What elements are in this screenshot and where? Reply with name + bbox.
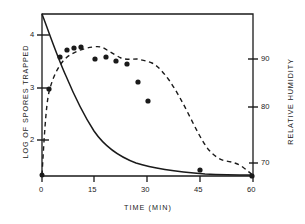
y-left-tick-label-2: 2 <box>30 135 34 144</box>
y-left-tick-label-4: 4 <box>30 30 34 39</box>
chart-canvas <box>0 0 305 224</box>
x-tick-label-45: 45 <box>194 185 202 194</box>
data-point <box>113 58 118 63</box>
x-tick-marks <box>42 176 253 182</box>
series-relative-humidity-line <box>42 47 253 175</box>
series-log-spores-trapped <box>42 14 253 175</box>
data-point <box>249 173 254 178</box>
data-point <box>103 54 108 59</box>
y-right-tick-label-80: 80 <box>261 102 269 111</box>
y-axis-left-title: LOG OF SPORES TRAPPED <box>21 26 30 178</box>
x-tick-label-60: 60 <box>247 185 255 194</box>
data-point <box>135 79 140 84</box>
y-right-tick-label-90: 90 <box>261 54 269 63</box>
data-point <box>64 47 69 52</box>
y-axis-right-title: RELATIVE HUMIDITY <box>286 26 295 178</box>
data-point <box>78 44 83 49</box>
y-left-tick-label-3: 3 <box>30 83 34 92</box>
x-tick-label-15: 15 <box>88 185 96 194</box>
chart-figure: 0 15 30 45 60 4 3 2 90 80 70 LOG OF SPOR… <box>0 0 305 224</box>
x-axis-title: TIME (MIN) <box>42 203 254 212</box>
data-point <box>46 86 51 91</box>
y-right-tick-label-70: 70 <box>261 158 269 167</box>
x-tick-label-30: 30 <box>141 185 149 194</box>
data-point <box>92 56 97 61</box>
data-point <box>197 167 202 172</box>
data-point-markers <box>40 44 255 178</box>
data-point <box>40 173 45 178</box>
data-point <box>145 98 150 103</box>
data-point <box>57 54 62 59</box>
data-point <box>124 61 129 66</box>
x-tick-label-0: 0 <box>39 185 43 194</box>
data-point <box>71 45 76 50</box>
